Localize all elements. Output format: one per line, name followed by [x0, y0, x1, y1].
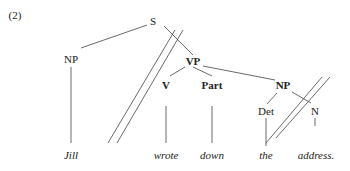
- edge-s-np: [81, 25, 147, 48]
- node-s: S: [150, 15, 156, 27]
- edge-vp-part: [193, 67, 212, 76]
- edge-vp-np: [203, 66, 275, 80]
- word-wrote: wrote: [154, 149, 179, 161]
- word-the: the: [259, 149, 272, 161]
- example-number: (2): [9, 9, 22, 21]
- node-v: V: [162, 79, 170, 91]
- double-slash-line-2: [117, 30, 183, 143]
- node-n: N: [311, 105, 319, 117]
- node-vp: VP: [186, 55, 201, 67]
- edge-np-det: [267, 93, 277, 104]
- node-part: Part: [202, 79, 223, 91]
- node-det: Det: [258, 105, 274, 117]
- word-jill: Jill: [64, 149, 78, 161]
- word-down: down: [200, 149, 224, 161]
- node-np-object: NP: [276, 79, 291, 91]
- tree-edges: [0, 0, 350, 171]
- edge-vp-v: [170, 67, 185, 76]
- node-np-subject: NP: [64, 53, 78, 65]
- word-address: address.: [298, 149, 335, 161]
